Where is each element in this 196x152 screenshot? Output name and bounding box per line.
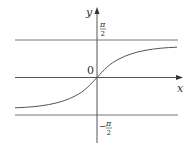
lower-asymptote-label-den: 2 [107, 129, 111, 137]
y-axis-label: y [85, 6, 93, 19]
arctan-graph: y x 0 π 2 − π 2 [0, 0, 196, 152]
upper-asymptote-label-den: 2 [101, 30, 105, 38]
origin-label: 0 [87, 64, 94, 77]
x-axis-arrow-icon [176, 75, 183, 80]
lower-asymptote-label-num: π [105, 119, 112, 128]
y-axis-arrow-icon [95, 7, 100, 14]
upper-asymptote-label-num: π [99, 20, 106, 29]
x-axis-label: x [177, 82, 184, 95]
